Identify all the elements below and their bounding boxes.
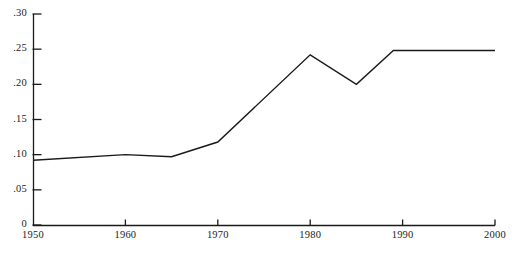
axes: [33, 14, 495, 226]
x-axis-tick-label: 1970: [188, 229, 248, 240]
line-chart: 0.05.10.15.20.25.30 19501960197019801990…: [0, 0, 512, 263]
x-axis-tick-label: 2000: [465, 229, 512, 240]
x-axis-tick-label: 1990: [373, 229, 433, 240]
y-axis-tick-label: .30: [0, 7, 27, 18]
y-axis-tick-label: .20: [0, 77, 27, 88]
series-line-1: [33, 51, 495, 161]
x-axis-tick-label: 1980: [280, 229, 340, 240]
data-series: [33, 51, 495, 161]
x-axis-tick-label: 1960: [95, 229, 155, 240]
x-axis-tick-label: 1950: [3, 229, 63, 240]
y-axis-tick-label: .25: [0, 42, 27, 53]
plot-area: [0, 0, 512, 263]
y-axis-tick-label: .15: [0, 113, 27, 124]
y-axis-tick-label: .10: [0, 148, 27, 159]
x-axis-ticks: [33, 220, 495, 226]
y-axis-tick-label: 0: [0, 218, 27, 229]
y-axis-tick-label: .05: [0, 183, 27, 194]
